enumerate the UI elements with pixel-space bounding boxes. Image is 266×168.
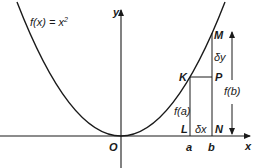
point-P-label: P <box>215 72 222 83</box>
y-axis-label: y <box>113 7 119 18</box>
x-axis-label: x <box>245 141 251 152</box>
delta-y-label: δy <box>214 52 226 63</box>
point-M-label: M <box>214 30 223 41</box>
delta-x-label: δx <box>195 124 207 135</box>
point-K-label: K <box>179 72 187 83</box>
f-a-label: f(a) <box>174 106 191 117</box>
f-b-label: f(b) <box>224 86 241 97</box>
parabola-diagram: f(x) = x2 y x O M δy P K f(b) f(a) L δx … <box>0 0 266 168</box>
function-label-text: f(x) = x <box>30 16 64 28</box>
point-L-label: L <box>181 124 188 135</box>
point-N-label: N <box>215 124 223 135</box>
function-exponent: 2 <box>64 16 68 23</box>
tick-b-label: b <box>208 142 215 153</box>
origin-label: O <box>109 142 118 153</box>
tick-a-label: a <box>186 142 192 153</box>
function-label: f(x) = x2 <box>30 16 68 28</box>
